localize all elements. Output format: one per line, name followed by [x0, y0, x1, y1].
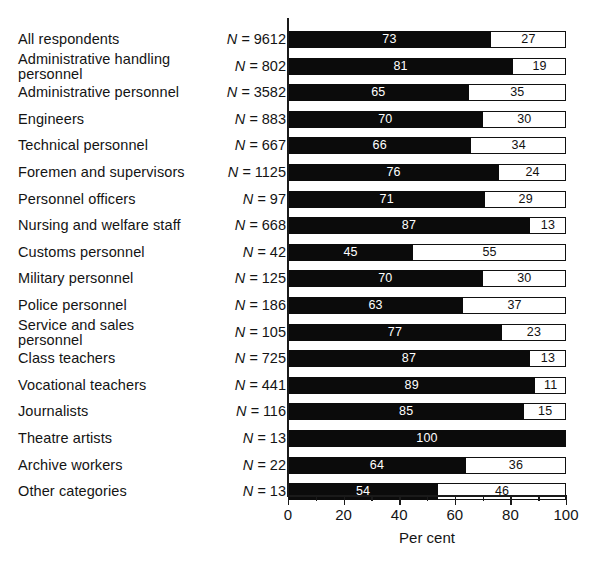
row-n-value: N = 125: [160, 271, 286, 286]
n-prefix: N =: [236, 403, 259, 419]
n-prefix: N =: [243, 191, 266, 207]
axis-minor-tick: [427, 496, 428, 501]
axis-tick-label: 40: [391, 507, 408, 523]
axis-minor-tick: [316, 496, 317, 501]
n-prefix: N =: [235, 111, 258, 127]
n-number: 97: [270, 191, 286, 207]
x-axis-title: Per cent: [288, 529, 566, 546]
n-number: 22: [270, 457, 286, 473]
n-number: 116: [263, 403, 286, 419]
n-number: 668: [262, 217, 286, 233]
n-number: 42: [270, 244, 286, 260]
row-n-value: N = 725: [160, 351, 286, 366]
row-n-value: N = 883: [160, 112, 286, 127]
n-number: 9612: [254, 31, 286, 47]
axis-tick-label: 0: [284, 507, 292, 523]
n-prefix: N =: [227, 84, 250, 100]
n-prefix: N =: [235, 377, 258, 393]
axis-vertical-line: [287, 18, 289, 495]
n-number: 883: [262, 111, 286, 127]
n-number: 802: [262, 58, 286, 74]
row-n-value: N = 105: [160, 325, 286, 340]
n-prefix: N =: [243, 457, 266, 473]
row-n-value: N = 802: [160, 59, 286, 74]
row-n-value: N = 13: [160, 431, 286, 446]
axis-major-tick: [344, 496, 345, 505]
row-n-value: N = 97: [160, 192, 286, 207]
stacked-bar-chart: All respondentsN = 96127327Administrativ…: [0, 0, 598, 567]
n-number: 667: [262, 137, 286, 153]
row-n-value: N = 668: [160, 218, 286, 233]
n-number: 13: [270, 483, 286, 499]
n-prefix: N =: [243, 483, 266, 499]
n-number: 441: [262, 377, 286, 393]
axis-minor-tick: [538, 496, 539, 501]
n-prefix: N =: [228, 164, 251, 180]
n-prefix: N =: [235, 58, 258, 74]
axis-major-tick: [455, 496, 456, 505]
n-number: 13: [270, 430, 286, 446]
axis-tick-label: 80: [502, 507, 519, 523]
row-n-value: N = 9612: [160, 32, 286, 47]
n-prefix: N =: [235, 270, 258, 286]
row-n-value: N = 667: [160, 138, 286, 153]
n-prefix: N =: [235, 217, 258, 233]
row-n-value: N = 42: [160, 245, 286, 260]
n-prefix: N =: [243, 244, 266, 260]
axis-major-tick: [399, 496, 400, 505]
axis-minor-tick: [371, 496, 372, 501]
axis-tick-label: 100: [553, 507, 578, 523]
n-prefix: N =: [235, 324, 258, 340]
row-n-value: N = 22: [160, 458, 286, 473]
row-n-value: N = 441: [160, 378, 286, 393]
n-number: 105: [262, 324, 286, 340]
n-prefix: N =: [235, 137, 258, 153]
axis-major-tick: [566, 496, 567, 505]
n-number: 725: [262, 350, 286, 366]
axis-minor-tick: [483, 496, 484, 501]
row-n-value: N = 186: [160, 298, 286, 313]
axis-tick-label: 60: [446, 507, 463, 523]
axis-tick-label: 20: [335, 507, 352, 523]
row-n-value: N = 1125: [160, 165, 286, 180]
n-number: 1125: [255, 164, 286, 180]
n-prefix: N =: [235, 297, 258, 313]
axis-major-tick: [288, 496, 289, 505]
axis-major-tick: [510, 496, 511, 505]
n-prefix: N =: [243, 430, 266, 446]
n-prefix: N =: [235, 350, 258, 366]
row-n-value: N = 3582: [160, 85, 286, 100]
n-number: 186: [262, 297, 286, 313]
n-number: 3582: [254, 84, 286, 100]
row-n-value: N = 13: [160, 484, 286, 499]
x-axis: 020406080100: [288, 18, 566, 510]
row-n-value: N = 116: [160, 404, 286, 419]
n-prefix: N =: [227, 31, 250, 47]
n-number: 125: [262, 270, 286, 286]
